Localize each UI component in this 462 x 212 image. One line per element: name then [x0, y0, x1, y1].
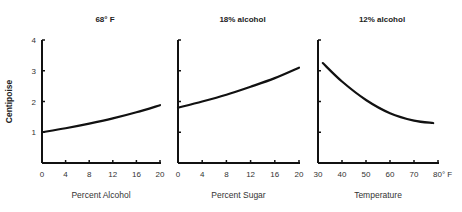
y-tick-label: 1 — [32, 128, 37, 137]
chart-title: 68° F — [95, 15, 114, 24]
x-tick-label: 80° F — [433, 170, 452, 179]
y-tick-label: 3 — [32, 67, 37, 76]
x-tick-label: 8 — [224, 170, 229, 179]
chart-panel-1: 68° F1234048121620CentipoisePercent Alco… — [4, 15, 165, 200]
x-tick-label: 20 — [156, 170, 165, 179]
x-tick-label: 0 — [176, 170, 181, 179]
viscosity-figure: 68° F1234048121620CentipoisePercent Alco… — [0, 0, 462, 212]
chart-panel-3: 12% alcohol304050607080° FTemperature — [314, 15, 453, 200]
x-tick-label: 12 — [108, 170, 117, 179]
x-tick-label: 60 — [386, 170, 395, 179]
charts-canvas: 68° F1234048121620CentipoisePercent Alco… — [0, 0, 462, 212]
chart-panel-2: 18% alcohol048121620Percent Sugar — [176, 15, 304, 200]
x-tick-label: 16 — [132, 170, 141, 179]
viscosity-curve — [42, 105, 160, 132]
x-tick-label: 4 — [200, 170, 205, 179]
x-tick-label: 12 — [246, 170, 255, 179]
chart-title: 18% alcohol — [219, 15, 265, 24]
x-axis-label: Percent Sugar — [211, 190, 266, 200]
x-tick-label: 40 — [338, 170, 347, 179]
chart-title: 12% alcohol — [359, 15, 405, 24]
x-tick-label: 16 — [270, 170, 279, 179]
y-tick-label: 2 — [32, 98, 37, 107]
y-tick-label: 4 — [32, 36, 37, 45]
x-tick-label: 50 — [362, 170, 371, 179]
y-axis-label: Centipoise — [4, 80, 14, 124]
x-tick-label: 30 — [314, 170, 323, 179]
x-tick-label: 20 — [295, 170, 304, 179]
x-tick-label: 70 — [410, 170, 419, 179]
x-axis-label: Temperature — [354, 190, 402, 200]
x-tick-label: 4 — [63, 170, 68, 179]
x-tick-label: 8 — [87, 170, 92, 179]
x-axis-label: Percent Alcohol — [71, 190, 130, 200]
x-tick-label: 0 — [40, 170, 45, 179]
viscosity-curve — [323, 63, 433, 123]
viscosity-curve — [178, 68, 299, 108]
